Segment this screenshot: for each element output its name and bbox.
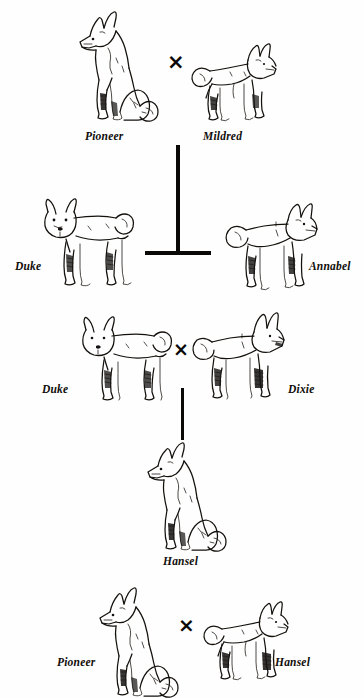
label-hansel-bottom: Hansel bbox=[275, 657, 310, 669]
label-pioneer-top: Pioneer bbox=[85, 131, 123, 143]
dog-illustration-pioneer-bottom bbox=[92, 584, 192, 698]
connector-vertical-generation-3 bbox=[181, 388, 184, 440]
label-dixie: Dixie bbox=[288, 384, 315, 396]
dog-illustration-pioneer-top bbox=[72, 6, 172, 126]
dog-illustration-hansel-bottom bbox=[198, 596, 292, 686]
label-pioneer-bottom: Pioneer bbox=[57, 657, 95, 669]
dog-illustration-mildred bbox=[186, 38, 280, 126]
dog-illustration-dixie bbox=[190, 310, 288, 400]
label-hansel-center: Hansel bbox=[163, 556, 198, 568]
label-mildred: Mildred bbox=[203, 131, 242, 143]
pedigree-diagram: × bbox=[0, 0, 364, 698]
label-duke-gen3: Duke bbox=[42, 384, 68, 396]
cross-symbol-generation-3: × bbox=[173, 340, 189, 359]
connector-horizontal-generation-1 bbox=[145, 251, 211, 255]
cross-symbol-generation-1: × bbox=[167, 52, 185, 73]
dog-illustration-duke-gen3 bbox=[76, 312, 174, 400]
dog-illustration-annabel bbox=[222, 200, 322, 292]
dog-illustration-hansel-center bbox=[142, 438, 234, 553]
label-duke-gen2: Duke bbox=[15, 261, 41, 273]
label-annabel: Annabel bbox=[309, 261, 351, 273]
dog-illustration-duke-gen2 bbox=[36, 192, 140, 290]
cross-symbol-generation-5: × bbox=[178, 615, 195, 635]
connector-vertical-generation-1 bbox=[176, 145, 180, 255]
